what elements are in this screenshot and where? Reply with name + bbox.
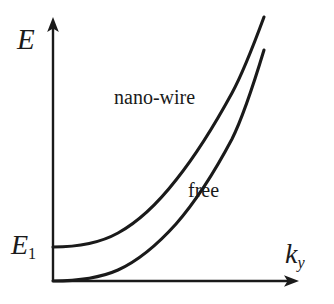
- curve-free-electron: [53, 50, 264, 281]
- energy-dispersion-figure: E E1 ky nano-wire free: [0, 0, 334, 304]
- curve-nano-wire: [53, 17, 264, 247]
- subband-minimum-subscript: 1: [28, 245, 36, 263]
- energy-axis: [47, 17, 59, 281]
- wavevector-subscript: y: [297, 254, 304, 272]
- curve-label-free: free: [188, 180, 219, 200]
- subband-minimum-symbol: E: [11, 229, 28, 260]
- energy-axis-label: E: [17, 25, 35, 54]
- curve-label-nano-wire: nano-wire: [114, 87, 195, 107]
- subband-minimum-label: E1: [11, 231, 36, 262]
- plot-canvas: [0, 0, 334, 304]
- wavevector-symbol: k: [285, 238, 297, 269]
- wavevector-axis-label: ky: [285, 240, 305, 271]
